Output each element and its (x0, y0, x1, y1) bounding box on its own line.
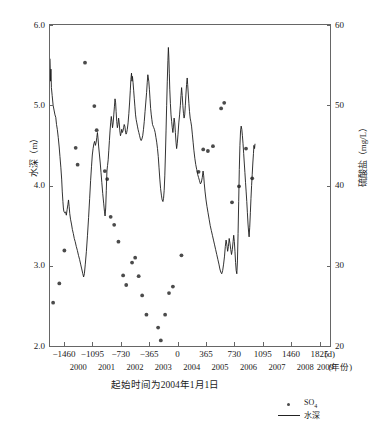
so4-data-point (76, 163, 80, 167)
x-axis-tickmark (234, 342, 235, 346)
x-axis-tickmark (178, 342, 179, 346)
so4-data-point (244, 147, 248, 151)
y-axis-left-tickmark (50, 25, 53, 26)
y-axis-right-tick-label: 50 (335, 101, 344, 110)
so4-data-point (140, 294, 144, 298)
x-axis-tickmark (149, 342, 150, 346)
so4-data-point (121, 273, 125, 277)
y-axis-left-tick-label: 4.0 (19, 181, 45, 190)
so4-data-point (105, 177, 109, 181)
y-axis-left-tickmark (50, 346, 53, 347)
legend-item-water-depth: 水深 (278, 410, 320, 421)
y-axis-left-tickmark (50, 186, 53, 187)
x-axis-tickmark (206, 342, 207, 346)
x-axis-tickmark (64, 342, 65, 346)
y-axis-right-tick-label: 30 (335, 261, 344, 270)
so4-data-point (51, 301, 55, 305)
x-axis-days-unit: (d) (325, 350, 336, 359)
so4-data-point (137, 274, 141, 278)
x-axis-tickmark (121, 342, 122, 346)
x-axis-year-unit: (年份) (328, 363, 352, 372)
so4-data-point (117, 240, 121, 244)
chart-figure: 水深（m） 硫酸盐（mg/L） 2.03.04.05.06.0203040506… (0, 0, 382, 429)
legend-item-so4: SO4 (278, 399, 320, 410)
so4-data-point (124, 283, 128, 287)
so4-data-point (57, 282, 61, 286)
y-axis-right-tick-label: 60 (335, 21, 344, 30)
x-axis-tickmark (92, 342, 93, 346)
y-axis-left-tick-label: 6.0 (19, 21, 45, 30)
so4-data-point (112, 223, 116, 227)
so4-data-point (219, 107, 223, 111)
so4-data-point (230, 200, 234, 204)
chart-caption: 起始时间为2004年1月1日 (0, 380, 330, 391)
y-axis-right-tickmark (327, 186, 330, 187)
x-axis-tickmark (320, 342, 321, 346)
y-axis-right-tickmark (327, 105, 330, 106)
y-axis-left-tick-label: 3.0 (19, 261, 45, 270)
so4-data-point (92, 104, 96, 108)
plot-area (49, 24, 331, 347)
so4-data-point (62, 249, 66, 253)
so4-data-point (130, 261, 134, 265)
so4-data-point (206, 149, 210, 153)
so4-data-point (74, 146, 78, 150)
so4-data-point (167, 291, 171, 295)
so4-data-point (95, 128, 99, 132)
x-axis-tickmark (263, 342, 264, 346)
so4-data-point (171, 285, 175, 289)
so4-data-point (222, 101, 226, 105)
y-axis-right-tickmark (327, 25, 330, 26)
y-axis-right-title: 硫酸盐（mg/L） (358, 110, 368, 200)
y-axis-left-tickmark (50, 105, 53, 106)
y-axis-left-tickmark (50, 266, 53, 267)
so4-data-point (163, 313, 167, 317)
legend-marker-line (278, 410, 300, 421)
data-series-layer (50, 25, 330, 346)
water-depth-line (50, 47, 255, 277)
so4-data-point (159, 338, 163, 342)
y-axis-right-tickmark (327, 266, 330, 267)
so4-data-point (83, 61, 87, 65)
legend-marker-dot (278, 399, 300, 410)
so4-data-point (180, 253, 184, 257)
y-axis-right-tickmark (327, 346, 330, 347)
so4-data-point (201, 147, 205, 151)
y-axis-left-tick-label: 5.0 (19, 101, 45, 110)
chart-legend: SO4 水深 (278, 399, 320, 421)
so4-data-point (145, 313, 149, 317)
so4-data-point (133, 256, 137, 260)
y-axis-right-tick-label: 40 (335, 181, 344, 190)
x-axis-tickmark (291, 342, 292, 346)
so4-data-point (156, 326, 160, 330)
legend-label-water-depth: 水深 (304, 410, 320, 421)
so4-data-point (109, 215, 113, 219)
so4-data-point (103, 169, 107, 173)
so4-data-point (211, 144, 215, 148)
